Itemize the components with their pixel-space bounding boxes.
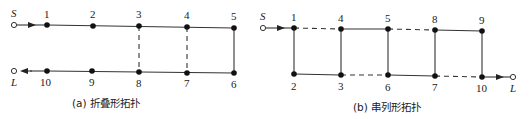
node-b-1 — [291, 25, 297, 31]
node-a-9 — [89, 68, 95, 74]
source-terminal-a — [11, 22, 16, 27]
node-a-3 — [136, 23, 142, 29]
node-a-2 — [90, 23, 96, 29]
node-label-a-1: 1 — [44, 8, 50, 20]
edge-6-7 — [388, 75, 435, 76]
node-b-7 — [432, 73, 438, 79]
node-label-a-8: 8 — [136, 77, 142, 89]
dashed-edge-7-10 — [435, 76, 482, 77]
node-label-a-10: 10 — [40, 76, 52, 88]
node-label-a-7: 7 — [184, 77, 190, 89]
node-label-a-9: 9 — [89, 76, 95, 88]
diagram-canvas: S L 1 2 3 4 5 10 — [0, 0, 529, 119]
caption-b: (b) 串列形拓扑 — [353, 101, 422, 113]
node-a-8 — [136, 69, 142, 75]
node-a-5 — [231, 25, 237, 31]
node-b-9 — [479, 28, 485, 34]
node-b-5 — [385, 26, 391, 32]
edge-2-3 — [294, 74, 341, 75]
node-label-b-6: 6 — [385, 81, 391, 93]
node-a-10 — [44, 68, 50, 74]
node-b-3 — [338, 72, 344, 78]
sink-terminal-a — [11, 68, 16, 73]
node-label-b-3: 3 — [338, 80, 344, 92]
node-label-a-6: 6 — [231, 78, 237, 90]
node-a-1 — [44, 22, 50, 28]
node-b-8 — [432, 27, 438, 33]
node-label-b-9: 9 — [479, 14, 485, 26]
node-label-a-5: 5 — [231, 10, 237, 22]
node-b-10 — [479, 74, 485, 80]
node-label-b-7: 7 — [432, 81, 438, 93]
dashed-edge-5-8 — [388, 29, 435, 30]
source-terminal-b — [260, 25, 265, 30]
sink-label-a: L — [10, 76, 17, 88]
caption-a: (a) 折叠形拓扑 — [72, 97, 141, 109]
panel-a-folded-topology: S L 1 2 3 4 5 10 — [10, 7, 237, 109]
node-label-b-5: 5 — [385, 12, 391, 24]
node-b-2 — [291, 71, 297, 77]
node-b-6 — [385, 72, 391, 78]
node-label-b-4: 4 — [338, 12, 344, 24]
panel-b-serial-topology: S L 1 — [260, 10, 516, 113]
edge-8-9 — [435, 30, 482, 31]
topology-figure: S L 1 2 3 4 5 10 — [0, 0, 529, 119]
node-a-6 — [231, 70, 237, 76]
node-a-7 — [184, 70, 190, 76]
source-label-a: S — [11, 7, 17, 19]
node-label-a-2: 2 — [90, 8, 96, 20]
node-label-b-10: 10 — [476, 82, 488, 94]
node-b-4 — [338, 26, 344, 32]
dashed-edge-1-4 — [294, 28, 341, 29]
node-label-a-3: 3 — [136, 8, 142, 20]
node-label-b-2: 2 — [291, 80, 297, 92]
node-label-b-8: 8 — [432, 13, 438, 25]
node-label-b-1: 1 — [291, 11, 297, 23]
node-a-4 — [184, 24, 190, 30]
source-label-b: S — [260, 10, 266, 22]
sink-label-b: L — [509, 82, 516, 94]
sink-terminal-b — [510, 74, 515, 79]
node-label-a-4: 4 — [184, 9, 190, 21]
